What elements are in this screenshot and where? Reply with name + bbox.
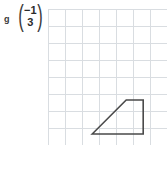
trapezoid-shape <box>92 100 143 134</box>
vector-components: −1 3 <box>23 5 38 28</box>
coordinate-grid <box>48 9 167 145</box>
column-vector: ( −1 3 ) <box>16 2 45 32</box>
vector-y-component: 3 <box>27 17 33 29</box>
shape-layer <box>48 9 167 145</box>
vector-left-parenthesis: ( <box>18 1 24 31</box>
vector-right-parenthesis: ) <box>37 1 43 31</box>
exercise-label: g <box>4 15 10 24</box>
